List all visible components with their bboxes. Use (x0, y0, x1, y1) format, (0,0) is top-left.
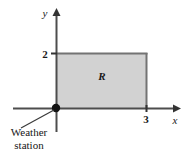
x-tick-label-3: 3 (143, 113, 149, 125)
y-tick-label-2: 2 (42, 48, 48, 60)
x-axis-label: x (172, 114, 178, 126)
y-axis-label: y (42, 7, 48, 19)
y-axis-arrow-icon (53, 8, 61, 16)
weather-station-callout-line2: station (0, 139, 58, 152)
region-label-R: R (97, 70, 105, 82)
weather-station-callout-line1: Weather (0, 126, 58, 139)
x-axis-arrow-icon (173, 105, 181, 113)
weather-station-region-figure: y x 2 3 R Weather station (0, 0, 191, 159)
